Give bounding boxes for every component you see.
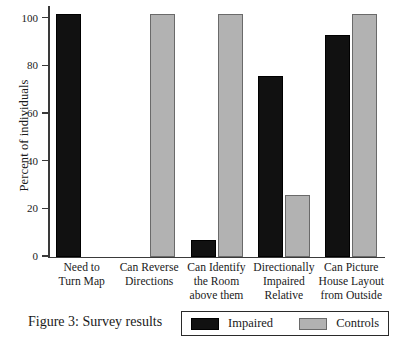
x-axis-label: Can PictureHouse Layoutfrom Outside [310, 261, 393, 304]
x-axis-category-labels: Need toTurn MapCan ReverseDirectionsCan … [48, 261, 392, 307]
legend-entry-controls: Controls [299, 312, 379, 335]
x-axis-label-line: from Outside [310, 289, 393, 303]
legend-swatch-controls [299, 318, 327, 330]
chart-legend: Impaired Controls [181, 311, 389, 336]
bar-controls [150, 14, 175, 257]
bar-controls [218, 14, 243, 257]
bar-impaired [191, 240, 216, 257]
x-axis-label-line: House Layout [310, 275, 393, 289]
y-axis-tick-label: 0 [33, 250, 39, 262]
y-axis-tick-label: 20 [27, 202, 38, 214]
bar-controls [285, 195, 310, 257]
figure-caption: Figure 3: Survey results [28, 314, 162, 330]
bar-controls [352, 14, 377, 257]
bar-impaired [56, 14, 81, 257]
bar-impaired [258, 76, 283, 257]
x-axis-label-line: Can Picture [310, 261, 393, 275]
legend-label-controls: Controls [336, 316, 379, 331]
bars-layer [48, 7, 385, 257]
y-axis-tick-label: 80 [27, 59, 38, 71]
plot-area: 020406080100 [48, 6, 385, 258]
legend-swatch-impaired [191, 318, 219, 330]
legend-entry-impaired: Impaired [191, 312, 273, 335]
y-axis-tick-label: 40 [27, 155, 38, 167]
legend-label-impaired: Impaired [228, 316, 273, 331]
y-axis-tick-label: 60 [27, 107, 38, 119]
x-axis-line [48, 257, 385, 259]
y-axis-tick-label: 100 [22, 12, 39, 24]
bar-impaired [325, 35, 350, 256]
figure-survey-results: Percent of individuals 020406080100 Need… [0, 0, 397, 347]
